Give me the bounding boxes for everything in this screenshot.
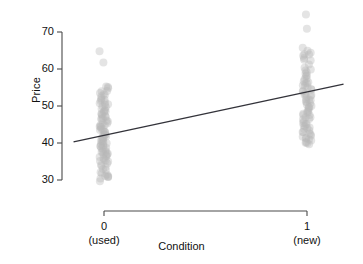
scatter-plot-figure: Price 3040506070 0(used)1(new) Condition <box>0 0 363 264</box>
y-tick-label: 50 <box>28 99 54 111</box>
axes-layer <box>57 32 307 216</box>
x-tick-value: 1 <box>272 219 342 233</box>
data-point <box>104 173 112 181</box>
y-tick-label: 30 <box>28 173 54 185</box>
data-point <box>99 59 107 67</box>
x-axis-label: Condition <box>0 240 363 252</box>
data-point <box>96 47 104 55</box>
x-tick-value: 0 <box>69 219 139 233</box>
y-tick-label: 40 <box>28 136 54 148</box>
data-point <box>303 25 311 33</box>
y-tick-label: 70 <box>28 25 54 37</box>
y-tick-label: 60 <box>28 62 54 74</box>
data-point <box>96 177 104 185</box>
data-point <box>302 11 310 19</box>
data-point <box>305 140 313 148</box>
